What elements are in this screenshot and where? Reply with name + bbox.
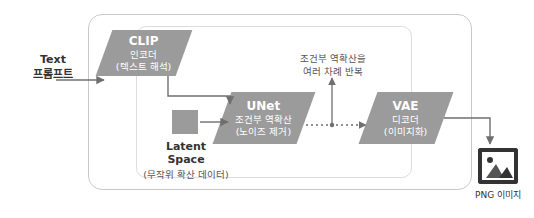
- unet-title: UNet: [235, 99, 292, 114]
- clip-encoder-block: CLIP 인코더 (텍스트 해석): [96, 30, 193, 76]
- clip-sub-2: (텍스트 해석): [116, 61, 171, 73]
- unet-sub-1: 조건부 역확산: [235, 114, 292, 126]
- latent-space-sub: (무작위 확산 데이터): [134, 167, 238, 181]
- text-prompt-line1: Text: [20, 52, 86, 67]
- loop-note-line1: 조건부 역확산을: [290, 52, 376, 65]
- latent-space-square: [172, 110, 198, 134]
- diagram-canvas: Text 프롬프트 CLIP 인코더 (텍스트 해석) Latent Space…: [0, 0, 534, 218]
- png-output-label: PNG 이미지: [466, 188, 530, 201]
- latent-label-line2: Space: [148, 153, 224, 166]
- clip-title: CLIP: [116, 34, 171, 49]
- clip-sub-1: 인코더: [116, 49, 171, 61]
- text-prompt-line2: 프롬프트: [20, 67, 86, 82]
- vae-title: VAE: [384, 99, 427, 114]
- text-prompt-label: Text 프롬프트: [20, 52, 86, 82]
- unet-sub-2: (노이즈 제거): [235, 126, 292, 138]
- vae-sub-2: (이미지화): [384, 126, 427, 138]
- vae-sub-1: 디코더: [384, 114, 427, 126]
- image-icon: [478, 148, 518, 184]
- loop-note: 조건부 역확산을 여러 차례 반복: [290, 52, 376, 78]
- loop-note-line2: 여러 차례 반복: [290, 65, 376, 78]
